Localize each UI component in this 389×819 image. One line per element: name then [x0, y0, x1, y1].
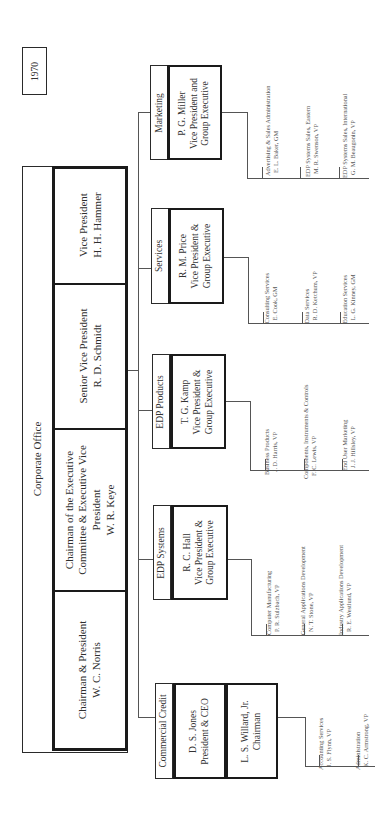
connector — [278, 717, 305, 718]
group-head-marketing: P. G. Miller Vice President and Group Ex… — [167, 66, 222, 161]
unit-services-2: Data ServicesR. D. Ketchum, VP — [300, 239, 322, 324]
group-head-commercial-credit: D. S. Jones President & CEO — [173, 684, 226, 780]
connector — [226, 401, 250, 402]
unit-edp-products-2: Components, Instruments & ControlsF. C. … — [299, 335, 321, 479]
unit-edp-systems-2: General Applications DevelopmentN. T. St… — [296, 501, 318, 635]
connector — [228, 559, 251, 560]
connector — [305, 717, 306, 766]
unit-marketing-3: EDP Systems Sales, InternationalG. M. Be… — [338, 44, 360, 178]
group-label-edp-systems: EDP Systems — [153, 506, 171, 601]
corporate-office-title: Corporate Office — [23, 166, 53, 753]
group-second-commercial-credit: L. S. Willard, Jr. Chairman — [225, 684, 278, 780]
unit-commercial-credit-1: Accounting ServicesJ. S. Flynn, VP — [314, 694, 336, 770]
connector — [247, 112, 248, 178]
connector — [138, 268, 151, 269]
connector — [247, 178, 369, 179]
spine-line — [138, 112, 139, 718]
unit-services-1: Consulting ServicesE. Cook, GM — [260, 239, 282, 324]
connector — [250, 401, 251, 470]
group-label-services: Services — [151, 208, 169, 304]
member-schmidt: Senior Vice President R. D. Schmidt — [55, 285, 127, 428]
connector — [248, 257, 249, 323]
connector — [251, 559, 252, 635]
unit-services-3: Education ServicesL. G. Kinney, GM — [338, 239, 360, 324]
connector — [138, 559, 153, 560]
connector — [222, 112, 247, 113]
year-box: 1970 — [22, 47, 47, 95]
member-keye: Chairman of the Executive Committee & Ex… — [54, 430, 126, 590]
member-norris: Chairman & President W. C. Norris — [54, 592, 126, 748]
connector — [224, 257, 248, 258]
connector — [138, 112, 150, 113]
group-head-edp-products: T. G. Kamp Vice President & Group Execut… — [170, 355, 226, 450]
unit-edp-products-3: End User MarketingJ. J. Hillsley, VP — [338, 375, 360, 471]
group-head-edp-systems: R. C. Hall Vice President & Group Execut… — [171, 505, 228, 600]
group-head-services: R. M. Price Vice President & Group Execu… — [168, 208, 224, 304]
connector — [138, 410, 152, 411]
group-label-commercial-credit: Commercial Credit — [155, 683, 173, 779]
connector — [138, 717, 155, 718]
year-label: 1970 — [29, 62, 41, 81]
unit-edp-systems-3: Industry Applications DevelopmentR. E. W… — [334, 501, 356, 635]
unit-edp-products-1: Business ProductsJ. D. Harris, VP — [260, 385, 282, 475]
connector — [251, 635, 369, 636]
group-label-marketing: Marketing — [151, 66, 169, 161]
unit-marketing-2: EDP Systems Sales, EasternM. R. Swenson,… — [301, 67, 323, 177]
group-label-edp-products: EDP Products — [152, 355, 170, 450]
unit-commercial-credit-2: AdministrationK. C. Armstrong, VP — [351, 686, 373, 770]
member-hammer: Vice President H. H. Hammer — [55, 168, 127, 283]
unit-edp-systems-1: Computer ManufacturingP. R. Sulzbach, VP — [262, 535, 284, 635]
connector — [128, 370, 139, 371]
unit-marketing-1: Advertising & Sales AdministrationE. L. … — [261, 46, 283, 176]
